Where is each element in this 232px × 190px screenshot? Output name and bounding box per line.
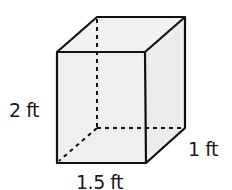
prism-diagram: 2 ft 1 ft 1.5 ft — [0, 0, 232, 190]
height-label: 2 ft — [9, 101, 39, 120]
front-face — [57, 52, 146, 163]
width-label: 1.5 ft — [76, 173, 123, 190]
depth-label: 1 ft — [188, 140, 218, 159]
rectangular-prism — [0, 0, 232, 190]
